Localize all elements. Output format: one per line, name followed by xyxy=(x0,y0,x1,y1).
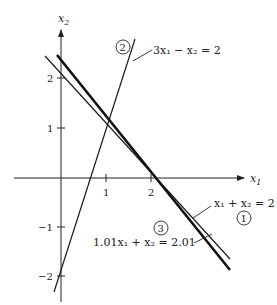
line-2-equation: 3x₁ − x₂ = 2 xyxy=(153,44,221,57)
svg-text:−2: −2 xyxy=(38,271,53,282)
line-3-marker: 3 xyxy=(154,221,168,235)
svg-text:2: 2 xyxy=(148,187,154,198)
line-1-leader xyxy=(193,206,211,218)
y-tick-1: 1 xyxy=(47,123,65,134)
line-3-equation: 1.01x₁ + x₂ = 2.01 xyxy=(93,236,196,249)
line-2-marker: 2 xyxy=(116,40,130,54)
svg-text:1: 1 xyxy=(103,187,109,198)
svg-text:1: 1 xyxy=(47,123,53,134)
line-1 xyxy=(45,56,230,259)
x1-axis-label: x1 xyxy=(250,172,261,187)
svg-text:1: 1 xyxy=(241,213,247,224)
line-1-equation: x₁ + x₂ = 2 xyxy=(214,197,275,210)
svg-text:2: 2 xyxy=(47,73,53,84)
line-2 xyxy=(54,39,135,292)
linear-system-diagram: x1 x2 1 2 2 1 −1 −2 2 3x₁ − x₂ = 2 x₁ + … xyxy=(0,0,277,305)
line-1-marker: 1 xyxy=(237,211,251,225)
svg-text:3: 3 xyxy=(158,223,164,234)
x2-axis-label: x2 xyxy=(58,12,69,27)
svg-text:−1: −1 xyxy=(38,222,53,233)
svg-text:2: 2 xyxy=(120,42,126,53)
line-2-leader xyxy=(133,50,152,61)
